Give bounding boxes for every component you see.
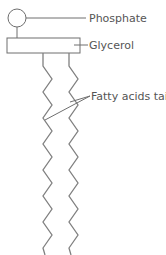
tails-label: Fatty acids tails [91,90,166,103]
fatty-acid-tail-left [43,53,52,255]
glycerol-backbone [7,38,80,53]
phosphate-label: Phosphate [89,12,147,25]
phospholipid-diagram: Phosphate Glycerol Fatty acids tails [0,0,166,255]
phosphate-head [8,9,26,27]
glycerol-label: Glycerol [89,39,134,52]
fatty-acid-tail-right [69,53,78,255]
tails-leader-line-left [45,96,90,120]
